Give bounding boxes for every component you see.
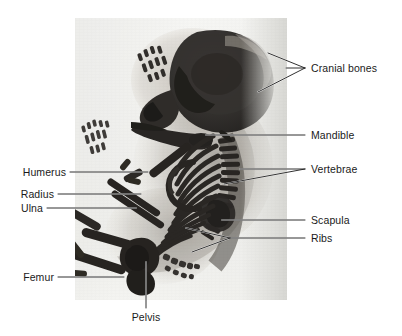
label-mandible: Mandible xyxy=(311,129,354,141)
label-radius: Radius xyxy=(0,188,54,200)
label-pelvis: Pelvis xyxy=(115,311,177,323)
photo-grain-overlay xyxy=(75,18,287,300)
label-ribs: Ribs xyxy=(311,232,332,244)
label-ulna: Ulna xyxy=(0,202,43,214)
label-cranial-bones: Cranial bones xyxy=(311,62,377,74)
label-femur: Femur xyxy=(0,271,54,283)
label-humerus: Humerus xyxy=(0,166,66,178)
label-scapula: Scapula xyxy=(311,214,350,226)
specimen-photograph xyxy=(75,18,287,300)
label-vertebrae: Vertebrae xyxy=(311,163,357,175)
labeled-anatomy-figure: Cranial bones Mandible Vertebrae Scapula… xyxy=(0,0,402,336)
